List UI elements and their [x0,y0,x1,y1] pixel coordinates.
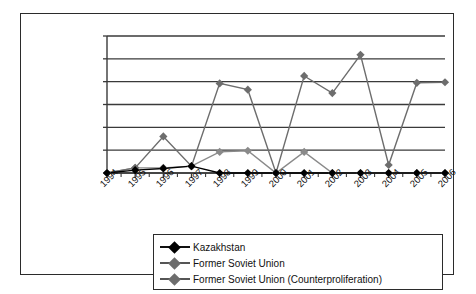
x-axis-tick-label: 2005 [408,167,430,189]
x-axis-tick-label: 2002 [323,167,345,189]
x-axis-tick-label: 2001 [295,167,317,189]
screenshot-root: $0$2,000,000$4,000,000$6,000,000$8,000,0… [0,0,476,294]
x-axis-tick-label: 2000 [267,167,289,189]
x-axis-tick-label: 1997 [183,167,205,189]
chart-figure-frame: $0$2,000,000$4,000,000$6,000,000$8,000,0… [20,13,454,275]
legend-item-former-soviet-union: Former Soviet Union [160,255,436,271]
x-axis-tick-label: 2006 [436,167,458,189]
legend-item-former-soviet-union-counterproliferation: Former Soviet Union (Counterproliferatio… [160,271,436,287]
x-axis-tick-label: 1994 [98,167,120,189]
legend-marker-icon-former-soviet-union [160,256,190,270]
x-axis-tick-label: 1999 [239,167,261,189]
chart-legend: Kazakhstan Former Soviet Union Former So… [153,234,443,290]
x-axis-tick-label: 2004 [380,167,402,189]
legend-label-kazakhstan: Kazakhstan [190,242,245,253]
legend-marker-icon-kazakhstan [160,240,190,254]
x-axis-tick-label: 2003 [352,167,374,189]
legend-label-former-soviet-union: Former Soviet Union [190,258,285,269]
legend-label-former-soviet-union-counterproliferation: Former Soviet Union (Counterproliferatio… [190,274,382,285]
x-axis-tick-label: 1998 [211,167,233,189]
x-axis-tick-label: 1996 [154,167,176,189]
x-axis-tick-label: 1995 [126,167,148,189]
legend-marker-icon-former-soviet-union-counterproliferation [160,272,190,286]
legend-item-kazakhstan: Kazakhstan [160,239,436,255]
